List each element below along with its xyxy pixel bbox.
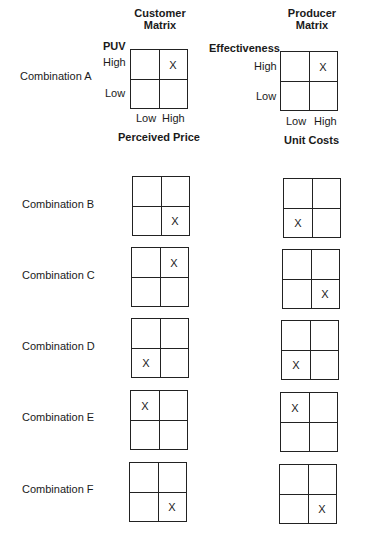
x-mark: X <box>309 52 337 81</box>
x-mark: X <box>132 348 160 377</box>
horizontal-divider <box>281 81 337 82</box>
producer-matrix-grid: X <box>281 320 339 380</box>
customer-matrix-grid: X <box>129 462 187 522</box>
combination-label: Combination F <box>22 483 94 495</box>
producer-matrix-grid: X <box>280 392 338 452</box>
horizontal-divider <box>131 79 187 80</box>
horizontal-divider <box>132 277 188 278</box>
customer-x-low: Low <box>136 112 156 124</box>
effectiveness-axis-label: Effectiveness <box>209 42 280 54</box>
puv-axis-label: PUV <box>103 40 126 52</box>
producer-matrix-title: Producer Matrix <box>280 7 344 31</box>
combination-label: Combination D <box>22 340 95 352</box>
producer-matrix-grid: X <box>279 464 337 524</box>
x-mark: X <box>281 393 309 422</box>
x-mark: X <box>282 350 310 379</box>
combination-label: Combination C <box>22 269 95 281</box>
customer-title-line2: Matrix <box>128 19 192 31</box>
customer-matrix-grid: X <box>130 390 188 450</box>
customer-y-high: High <box>103 56 126 68</box>
customer-y-low: Low <box>105 87 125 99</box>
horizontal-divider <box>281 422 337 423</box>
x-mark: X <box>161 206 189 235</box>
combination-label: Combination A <box>20 70 92 82</box>
x-mark: X <box>284 208 312 237</box>
customer-matrix-grid: X <box>132 176 190 236</box>
x-mark: X <box>131 391 159 420</box>
producer-x-high: High <box>314 115 337 127</box>
perceived-price-axis-label: Perceived Price <box>118 131 200 143</box>
combination-label: Combination E <box>22 411 94 423</box>
x-mark: X <box>308 494 336 523</box>
producer-x-low: Low <box>286 115 306 127</box>
horizontal-divider <box>131 420 187 421</box>
producer-matrix-grid: X <box>280 51 338 111</box>
producer-matrix-grid: X <box>283 178 341 238</box>
combination-label: Combination B <box>22 198 94 210</box>
producer-y-low: Low <box>256 90 276 102</box>
x-mark: X <box>311 279 339 308</box>
customer-matrix-grid: X <box>131 247 189 307</box>
x-mark: X <box>158 492 186 521</box>
unit-costs-axis-label: Unit Costs <box>284 134 339 146</box>
producer-y-high: High <box>254 60 277 72</box>
producer-title-line1: Producer <box>280 7 344 19</box>
x-mark: X <box>160 248 188 277</box>
customer-matrix-grid: X <box>130 49 188 109</box>
customer-title-line1: Customer <box>128 7 192 19</box>
producer-matrix-grid: X <box>282 249 340 309</box>
producer-title-line2: Matrix <box>280 19 344 31</box>
customer-x-high: High <box>162 112 185 124</box>
customer-matrix-title: Customer Matrix <box>128 7 192 31</box>
customer-matrix-grid: X <box>131 318 189 378</box>
x-mark: X <box>159 50 187 79</box>
